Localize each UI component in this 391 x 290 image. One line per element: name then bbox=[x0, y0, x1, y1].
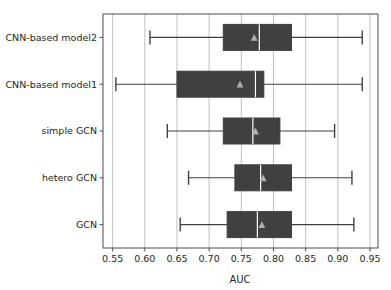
x-tick-label: 0.80 bbox=[263, 253, 284, 264]
x-tick-label: 0.85 bbox=[295, 253, 316, 264]
category-label-simple-gcn: simple GCN bbox=[42, 125, 97, 136]
box-body bbox=[223, 24, 291, 50]
y-axis-ticks bbox=[100, 37, 104, 224]
y-axis-category-labels: GCNhetero GCNsimple GCNCNN-based model1C… bbox=[5, 32, 97, 230]
category-label-cnn-based-model2: CNN-based model2 bbox=[5, 32, 97, 43]
x-axis-tick-labels: 0.550.600.650.700.750.800.850.900.95 bbox=[102, 253, 380, 264]
x-tick-label: 0.90 bbox=[327, 253, 348, 264]
x-tick-label: 0.60 bbox=[134, 253, 155, 264]
category-label-hetero-gcn: hetero GCN bbox=[42, 172, 97, 183]
x-axis-title: AUC bbox=[229, 274, 250, 285]
x-tick-label: 0.70 bbox=[199, 253, 220, 264]
box-plot-figure: 0.550.600.650.700.750.800.850.900.95 GCN… bbox=[0, 0, 391, 290]
x-tick-label: 0.95 bbox=[359, 253, 380, 264]
category-label-gcn: GCN bbox=[76, 219, 97, 230]
box-body bbox=[227, 212, 291, 238]
box-body bbox=[223, 118, 280, 144]
category-label-cnn-based-model1: CNN-based model1 bbox=[5, 79, 97, 90]
box-plot-canvas: 0.550.600.650.700.750.800.850.900.95 GCN… bbox=[0, 0, 391, 290]
x-tick-label: 0.55 bbox=[102, 253, 123, 264]
box-body bbox=[177, 71, 264, 97]
x-tick-label: 0.75 bbox=[231, 253, 252, 264]
x-axis-ticks bbox=[113, 248, 370, 252]
x-tick-label: 0.65 bbox=[166, 253, 187, 264]
